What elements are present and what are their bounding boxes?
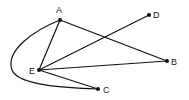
node-c [96, 87, 100, 91]
node-e [37, 68, 41, 72]
labels-group: ABCDE [29, 5, 177, 95]
nodes-group [37, 13, 169, 91]
node-label-d: D [153, 10, 160, 20]
edges-group [11, 15, 167, 89]
graph-diagram: ABCDE [0, 0, 189, 100]
node-label-a: A [56, 5, 62, 15]
node-label-b: B [171, 57, 177, 67]
node-b [165, 59, 169, 63]
node-label-e: E [29, 66, 35, 76]
edge-a-b [60, 20, 167, 61]
edge-a-c [11, 20, 98, 89]
node-label-c: C [103, 85, 110, 95]
edge-e-b [39, 61, 167, 70]
node-d [147, 13, 151, 17]
edge-e-c [39, 70, 98, 89]
edge-a-e [39, 20, 60, 70]
node-a [58, 18, 62, 22]
edge-e-d [39, 15, 149, 70]
